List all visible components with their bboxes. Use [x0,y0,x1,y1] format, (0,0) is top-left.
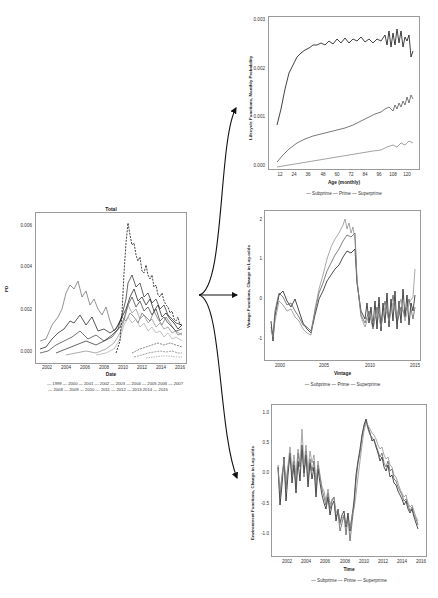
x-tick: 2005 [314,363,334,368]
x-tick: 2014 [392,559,412,564]
x-tick: 2016 [411,559,431,564]
lifecycle-chart: Lifecycle Functions, Monthly Probability… [240,0,438,200]
y-tick: 0.000 [243,163,265,168]
x-tick: 2012 [373,559,393,564]
x-tick: 2004 [296,559,316,564]
y-tick: 0.003 [243,17,265,22]
y-tick: 0.002 [243,66,265,71]
x-tick: 2010 [354,559,374,564]
x-tick: 2014 [151,365,171,370]
x-tick: 2006 [315,559,335,564]
y-tick: 1 [240,256,262,261]
x-tick: 2015 [405,363,425,368]
y-tick: 0.006 [10,223,32,228]
arrow-to-lifecycle [199,108,236,295]
legend-row-1: — 1999 — 2000 — 2001 — 2002 — 2003 — 200… [35,381,195,386]
legend: — Subprime — Prime — Superprime [264,382,421,387]
y-tick: -1 [240,336,262,341]
vintage-chart: Vintage Functions, Change in Log-odds 2 … [240,200,438,400]
plot-area [35,212,187,364]
y-tick: -1.0 [247,531,269,536]
total-pd-chart: Total PD 0.006 0.004 0.002 0.000 2002 20… [0,200,200,390]
x-axis-label: Age (monthly) [268,180,420,185]
x-tick: 2010 [113,365,133,370]
plot-area [264,210,421,361]
legend: — Subprime — Prime — Superprime [271,578,427,583]
y-tick: 0.000 [10,349,32,354]
plot-area [268,16,420,170]
y-axis-label: PD [4,286,9,292]
y-tick: 0.0 [247,470,269,475]
x-tick: 2010 [360,363,380,368]
legend-row-2: — 2008 — 2009 — 2010 — 2011 — 2012 — 201… [28,387,188,392]
legend: — Subprime — Prime — Superprime [268,191,420,196]
y-tick: -0.5 [247,501,269,506]
x-axis-label: Vintage [264,371,421,376]
x-tick: 2012 [132,365,152,370]
x-tick: 120 [397,172,417,177]
x-tick: 2000 [270,363,290,368]
x-tick: 2008 [335,559,355,564]
y-tick: 2 [240,217,262,222]
y-tick: 0.001 [243,114,265,119]
y-tick: 0 [240,296,262,301]
x-tick: 2008 [94,365,114,370]
x-axis-label: Date [35,372,187,377]
y-tick: 0.5 [247,440,269,445]
plot-area [271,404,427,557]
x-tick: 2002 [277,559,297,564]
x-tick: 2002 [37,365,57,370]
environment-chart: Environment Functions, Change in Log-odd… [240,400,438,598]
x-axis-label: Time [271,567,427,572]
y-tick: 1.0 [247,410,269,415]
arrow-to-environment [199,295,237,478]
y-tick: 0.004 [10,264,32,269]
y-tick: 0.002 [10,307,32,312]
x-tick: 2004 [56,365,76,370]
x-tick: 2006 [75,365,95,370]
y-axis-label: Environment Functions, Change in Log-odd… [250,446,255,540]
x-tick: 2016 [170,365,190,370]
